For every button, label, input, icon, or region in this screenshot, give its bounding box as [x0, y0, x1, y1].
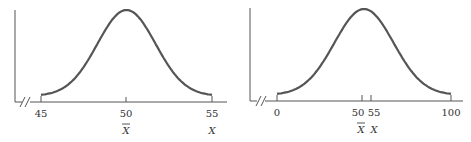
left-label-50: 50 — [120, 108, 133, 119]
right-chart: 0 50 55 100 X X — [250, 8, 463, 135]
left-label-55: 55 — [206, 108, 219, 119]
right-label-50: 50 — [352, 107, 365, 118]
right-normal-curve — [277, 9, 451, 94]
right-label-55: 55 — [368, 107, 381, 118]
right-label-100: 100 — [441, 107, 460, 118]
figure: 45 50 55 X X 0 50 55 100 X X — [0, 0, 471, 142]
left-label-45: 45 — [35, 108, 48, 119]
left-normal-curve — [41, 10, 212, 95]
right-label-0: 0 — [274, 107, 280, 118]
right-x-symbol: X — [369, 124, 378, 135]
right-mean-symbol: X — [356, 124, 365, 135]
left-mean-symbol: X — [121, 125, 130, 136]
left-chart: 45 50 55 X X — [15, 10, 227, 136]
left-x-symbol: X — [207, 125, 216, 136]
right-axis-break-icon — [256, 96, 266, 106]
